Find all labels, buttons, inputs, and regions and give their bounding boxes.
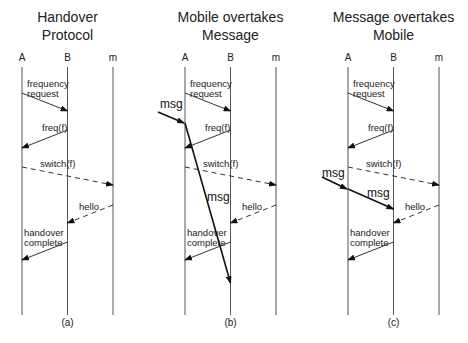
- panel-title: Message: [202, 27, 259, 43]
- panel-title: Mobile: [373, 27, 414, 43]
- message-label: complete: [350, 237, 389, 248]
- panel-title: Handover: [37, 9, 98, 25]
- message-label: request: [27, 88, 59, 99]
- panel-c: Message overtakesMobileABmfrequencyreque…: [322, 9, 454, 328]
- message-label: switch(f): [203, 158, 238, 169]
- incoming-msg-label: msg: [322, 166, 345, 180]
- lifeline-label-m: m: [109, 52, 117, 63]
- message-label: request: [353, 88, 385, 99]
- lifeline-label-m: m: [272, 52, 280, 63]
- incoming-msg-label: msg: [160, 97, 183, 111]
- forwarded-msg-label: msg: [207, 190, 230, 204]
- handover-sequence-diagrams: HandoverProtocolABmfrequencyrequestfreq(…: [0, 0, 468, 343]
- lifeline-label-B: B: [227, 52, 234, 63]
- panel-a: HandoverProtocolABmfrequencyrequestfreq(…: [19, 9, 118, 328]
- message-label: hello: [242, 201, 262, 212]
- panel-b: Mobile overtakesMessageABmfrequencyreque…: [158, 9, 283, 328]
- message-label: complete: [24, 237, 63, 248]
- lifeline-label-A: A: [345, 52, 352, 63]
- message-label: hello: [405, 201, 425, 212]
- incoming-msg-arrow: [158, 112, 184, 123]
- message-label: freq(f): [205, 122, 230, 133]
- panel-title: Protocol: [42, 27, 93, 43]
- lifeline-label-B: B: [390, 52, 397, 63]
- panel-title: Message overtakes: [333, 9, 454, 25]
- lifeline-label-A: A: [19, 52, 26, 63]
- message-label: switch(f): [40, 158, 75, 169]
- message-label: switch(f): [366, 158, 401, 169]
- lifeline-label-A: A: [182, 52, 189, 63]
- panel-title: Mobile overtakes: [178, 9, 284, 25]
- message-label: freq(f): [368, 122, 393, 133]
- message-label: request: [190, 88, 222, 99]
- panel-caption: (b): [224, 317, 236, 328]
- panel-caption: (c): [388, 317, 400, 328]
- forwarded-msg-label: msg: [367, 186, 390, 200]
- panel-caption: (a): [61, 317, 73, 328]
- message-label: hello: [79, 201, 99, 212]
- lifeline-label-B: B: [64, 52, 71, 63]
- message-label: freq(f): [42, 122, 67, 133]
- lifeline-label-m: m: [435, 52, 443, 63]
